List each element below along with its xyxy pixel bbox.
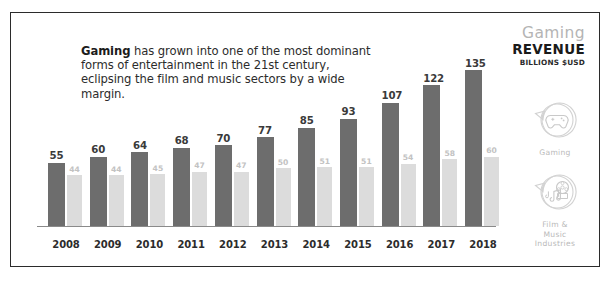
bar-group: 6445 xyxy=(130,53,168,226)
bar-gaming: 85 xyxy=(298,128,315,226)
bar-value-label: 60 xyxy=(484,146,499,155)
bar-group: 12258 xyxy=(422,53,460,226)
bar-value-label: 93 xyxy=(340,106,357,117)
bar-value-label: 44 xyxy=(67,165,82,174)
music-film-speech-bubble-icon xyxy=(519,169,591,219)
bar-value-label: 64 xyxy=(131,140,148,151)
bar-value-label: 68 xyxy=(173,135,190,146)
bar-value-label: 122 xyxy=(423,73,440,84)
bar-film-music: 51 xyxy=(317,167,332,226)
bar-film-music: 44 xyxy=(67,175,82,226)
bar-value-label: 85 xyxy=(298,115,315,126)
x-axis-tick-label: 2008 xyxy=(46,239,86,250)
bar-gaming: 60 xyxy=(90,157,107,226)
x-axis-tick-label: 2014 xyxy=(296,239,336,250)
bar-gaming: 68 xyxy=(173,148,190,226)
bar-group: 13560 xyxy=(464,53,502,226)
bar-film-music: 51 xyxy=(359,167,374,226)
bar-film-music: 50 xyxy=(276,168,291,226)
bar-gaming: 70 xyxy=(215,145,232,226)
bar-value-label: 44 xyxy=(109,165,124,174)
bar-chart: 5544604464456847704777508551935110754122… xyxy=(37,53,505,258)
infographic-panel: Gaming has grown into one of the most do… xyxy=(10,12,600,267)
x-axis-tick-label: 2015 xyxy=(338,239,378,250)
legend-label-gaming: Gaming xyxy=(519,148,591,158)
bar-gaming: 93 xyxy=(340,119,357,226)
bar-gaming: 122 xyxy=(423,85,440,226)
gamepad-speech-bubble-icon xyxy=(519,97,591,147)
x-axis-line xyxy=(37,226,496,227)
bar-gaming: 55 xyxy=(48,163,65,226)
bar-film-music: 58 xyxy=(442,159,457,226)
x-axis-tick-label: 2009 xyxy=(88,239,128,250)
bar-film-music: 44 xyxy=(109,175,124,226)
bar-gaming: 107 xyxy=(382,103,399,226)
bar-group: 6044 xyxy=(89,53,127,226)
bar-film-music: 54 xyxy=(401,164,416,226)
legend-item-gaming: Gaming xyxy=(519,97,591,158)
x-axis-tick-label: 2018 xyxy=(463,239,503,250)
bar-group: 6847 xyxy=(172,53,210,226)
bar-value-label: 135 xyxy=(465,58,482,69)
x-axis-tick-label: 2012 xyxy=(213,239,253,250)
bar-value-label: 55 xyxy=(48,150,65,161)
bar-gaming: 135 xyxy=(465,70,482,226)
bar-film-music: 47 xyxy=(234,172,249,226)
bar-value-label: 51 xyxy=(359,157,374,166)
bar-film-music: 45 xyxy=(150,174,165,226)
bar-value-label: 47 xyxy=(192,161,207,170)
bar-group: 5544 xyxy=(47,53,85,226)
bar-group: 8551 xyxy=(297,53,335,226)
bar-group: 7750 xyxy=(256,53,294,226)
bar-group: 9351 xyxy=(339,53,377,226)
bar-film-music: 47 xyxy=(192,172,207,226)
bar-value-label: 70 xyxy=(215,133,232,144)
plot-area: 5544604464456847704777508551935110754122… xyxy=(37,53,505,226)
bar-value-label: 50 xyxy=(276,158,291,167)
x-axis-tick-label: 2016 xyxy=(380,239,420,250)
x-axis-tick-label: 2010 xyxy=(129,239,169,250)
x-axis-tick-label: 2013 xyxy=(255,239,295,250)
bar-gaming: 77 xyxy=(257,137,274,226)
bar-group: 7047 xyxy=(214,53,252,226)
bar-value-label: 47 xyxy=(234,161,249,170)
bar-film-music: 60 xyxy=(484,157,499,226)
bar-gaming: 64 xyxy=(131,152,148,226)
bar-value-label: 77 xyxy=(257,125,274,136)
legend-label-film-music: Film & Music Industries xyxy=(519,220,591,249)
bar-value-label: 51 xyxy=(317,157,332,166)
x-axis-tick-label: 2017 xyxy=(421,239,461,250)
bar-value-label: 58 xyxy=(442,149,457,158)
title-kicker: Gaming xyxy=(489,25,585,42)
bar-group: 10754 xyxy=(381,53,419,226)
bar-value-label: 45 xyxy=(150,164,165,173)
x-axis-tick-label: 2011 xyxy=(171,239,211,250)
bar-value-label: 54 xyxy=(401,153,416,162)
legend-item-film-music: Film & Music Industries xyxy=(519,169,591,249)
bar-value-label: 60 xyxy=(90,144,107,155)
bar-value-label: 107 xyxy=(382,90,399,101)
